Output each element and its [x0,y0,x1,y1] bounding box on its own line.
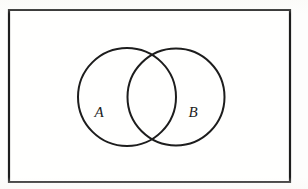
set-a-label: A [93,104,104,120]
universal-set-rectangle [9,10,290,182]
set-b-label: B [188,104,197,120]
venn-diagram-canvas: A B [0,0,308,189]
venn-diagram-figure: A B [0,0,308,189]
